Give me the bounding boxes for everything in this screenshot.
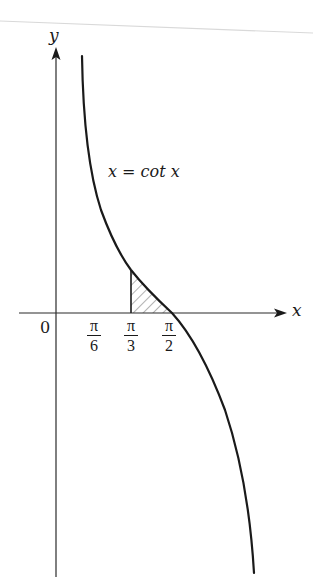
x-axis-label: x (292, 302, 302, 319)
tick-numerator: π (89, 318, 99, 335)
shaded-region (128, 265, 176, 315)
tick-numerator: π (126, 318, 136, 335)
tick-label-pi-over-2: π 2 (162, 318, 176, 354)
tick-label-pi-over-3: π 3 (124, 318, 138, 354)
tick-denominator: 6 (90, 336, 98, 354)
scan-edge-line (0, 21, 313, 33)
cot-graph-figure: y x 0 x = cot x π 6 π 3 π 2 (0, 0, 313, 588)
tick-denominator: 2 (165, 336, 173, 354)
tick-numerator: π (164, 318, 174, 335)
y-axis (52, 47, 61, 577)
graph-canvas (0, 0, 313, 588)
cot-curve (82, 56, 254, 573)
curve-equation-label: x = cot x (108, 164, 180, 180)
tick-label-pi-over-6: π 6 (87, 318, 101, 354)
y-axis-label: y (49, 27, 59, 44)
tick-denominator: 3 (127, 336, 135, 354)
origin-label: 0 (40, 320, 50, 336)
